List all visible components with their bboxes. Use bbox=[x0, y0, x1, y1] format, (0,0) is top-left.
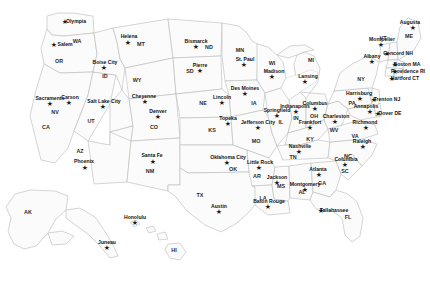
capital-label-concord-nh: Concord NH bbox=[383, 51, 413, 57]
capital-label-des-moines: Des Moines bbox=[231, 86, 259, 92]
state-label-mn: MN bbox=[236, 48, 244, 54]
state-label-il: IL bbox=[279, 120, 284, 126]
capital-label-annapolis: Annapolis bbox=[354, 104, 379, 110]
capital-label-frankfort: Frankfort bbox=[299, 120, 321, 126]
state-label-hi: HI bbox=[171, 248, 176, 254]
capital-label-tallahassee: Tallahassee bbox=[320, 208, 349, 214]
capital-label-nashville: Nashville bbox=[289, 144, 311, 150]
state-label-ia: IA bbox=[251, 101, 256, 107]
capital-label-oklahoma-city: Oklahoma City bbox=[210, 155, 246, 161]
capital-label-santa-fe: Santa Fe bbox=[141, 153, 162, 159]
capital-marker-icon: ★ bbox=[51, 42, 57, 49]
state-label-ms: MS bbox=[277, 184, 285, 190]
capital-label-raleigh: Raleigh bbox=[353, 139, 371, 145]
state-label-me: ME bbox=[405, 34, 413, 40]
state-label-ne: NE bbox=[199, 101, 207, 107]
capital-label-montgomery: Montgomery bbox=[290, 182, 321, 188]
capital-label-olympia: Olympia bbox=[66, 19, 86, 25]
capital-label-pierre: Pierre bbox=[193, 63, 207, 69]
state-label-wi: WI bbox=[269, 61, 276, 67]
capital-label-jefferson-city: Jefferson City bbox=[241, 120, 275, 126]
capital-label-augusta: Augusta bbox=[400, 20, 420, 26]
state-label-tn: TN bbox=[289, 155, 296, 161]
capital-label-albany: Albany bbox=[364, 54, 381, 60]
state-label-az: AZ bbox=[76, 149, 83, 155]
state-label-sc: SC bbox=[341, 169, 349, 175]
state-label-wy: WY bbox=[133, 78, 142, 84]
capital-label-little-rock: Little Rock bbox=[247, 160, 273, 166]
capital-label-st-paul: St. Paul bbox=[236, 57, 255, 63]
capital-label-richmond: Richmond bbox=[353, 120, 378, 126]
capital-label-lincoln: Lincoln bbox=[213, 95, 231, 101]
capital-label-salt-lake-city: Salt Lake City bbox=[87, 99, 120, 105]
capital-label-salem: Salem bbox=[57, 42, 72, 48]
state-label-al: AL bbox=[298, 190, 305, 196]
us-capitals-map: WAORIDMTNDSDWYNVCAUTCONEKSAZNMOKTXMNIAMO… bbox=[0, 0, 430, 281]
state-label-nv: NV bbox=[51, 110, 59, 116]
state-label-ak: AK bbox=[24, 210, 32, 216]
state-label-id: ID bbox=[102, 74, 107, 80]
capital-label-columbus: Columbus bbox=[303, 101, 328, 107]
capital-marker-icon: ★ bbox=[82, 165, 88, 172]
state-label-co: CO bbox=[150, 125, 158, 131]
state-label-mo: MO bbox=[252, 139, 261, 145]
capital-label-dover-de: Dover DE bbox=[379, 111, 402, 117]
state-label-wv: WV bbox=[330, 128, 339, 134]
capital-label-boston-ma: Boston MA bbox=[394, 62, 421, 68]
capital-label-columbia: Columbia bbox=[334, 157, 357, 163]
capital-label-topeka: Topeka bbox=[219, 116, 236, 122]
state-label-ok: OK bbox=[229, 167, 237, 173]
capital-label-sacramento: Sacramento bbox=[35, 96, 64, 102]
capital-label-atlanta: Atlanta bbox=[309, 167, 326, 173]
capital-label-austin: Austin bbox=[211, 204, 227, 210]
state-label-sd: SD bbox=[186, 69, 194, 75]
capital-label-madison: Madison bbox=[264, 69, 285, 75]
capital-label-charleston: Charleston bbox=[323, 114, 350, 120]
state-label-ny: NY bbox=[357, 77, 365, 83]
capital-label-harrisburg: Harrisburg bbox=[346, 91, 372, 97]
state-label-tx: TX bbox=[197, 193, 204, 199]
capital-label-boise-city: Boise City bbox=[93, 60, 118, 66]
capital-label-lansing: Lansing bbox=[298, 74, 318, 80]
state-label-fl: FL bbox=[345, 215, 352, 221]
capital-label-helena: Helena bbox=[121, 34, 138, 40]
capital-label-baton-rouge: Baton Rouge bbox=[253, 199, 285, 205]
capital-label-trenton-nj: Trenton NJ bbox=[374, 97, 401, 103]
capital-label-cheyenne: Cheyenne bbox=[132, 94, 156, 100]
capital-marker-icon: ★ bbox=[150, 159, 156, 166]
capital-label-phoenix: Phoenix bbox=[74, 159, 94, 165]
state-label-wa: WA bbox=[73, 39, 82, 45]
capital-label-bismarck: Bismarck bbox=[185, 39, 208, 45]
state-label-ky: KY bbox=[306, 137, 314, 143]
map-label-overlay: WAORIDMTNDSDWYNVCAUTCONEKSAZNMOKTXMNIAMO… bbox=[0, 0, 430, 281]
state-label-mi: MI bbox=[308, 58, 314, 64]
state-label-mt: MT bbox=[137, 42, 145, 48]
capital-label-juneau: Juneau bbox=[98, 240, 116, 246]
state-label-nm: NM bbox=[146, 169, 154, 175]
capital-label-jackson: Jackson bbox=[267, 175, 287, 181]
capital-label-providence-ri: Providence RI bbox=[391, 69, 425, 75]
state-label-ut: UT bbox=[87, 119, 94, 125]
state-label-nd: ND bbox=[205, 45, 213, 51]
capital-label-montpelier: Montpelier bbox=[369, 37, 395, 43]
capital-marker-icon: ★ bbox=[125, 40, 131, 47]
capital-label-denver: Denver bbox=[149, 109, 166, 115]
capital-label-hartford-ct: Hartford CT bbox=[391, 76, 419, 82]
state-label-ar: AR bbox=[253, 174, 261, 180]
state-label-or: OR bbox=[55, 59, 63, 65]
state-label-ca: CA bbox=[42, 125, 50, 131]
state-label-ks: KS bbox=[208, 128, 216, 134]
capital-label-honolulu: Honolulu bbox=[124, 215, 146, 221]
